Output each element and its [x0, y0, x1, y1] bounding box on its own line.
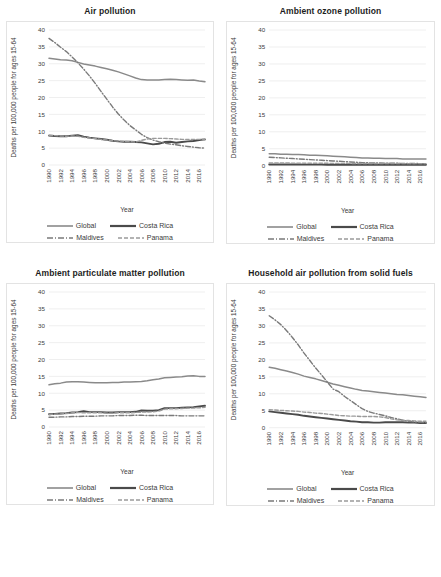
legend-item-global[interactable]: Global — [267, 223, 316, 231]
y-axis-tick-label: 5 — [42, 144, 46, 151]
x-axis-tick-label: 2008 — [149, 430, 156, 444]
legend-swatch-costa-rica-icon — [110, 223, 136, 229]
chart-svg: 0510152025303540Deaths per 100,000 peopl… — [7, 22, 213, 217]
legend-label-costa-rica: Costa Rica — [360, 223, 394, 231]
x-axis-tick-label: 1992 — [57, 168, 64, 182]
y-axis-title: Deaths per 100,000 people for ages 15-64 — [10, 299, 18, 420]
chart-plot-area: 0510152025303540Deaths per 100,000 peopl… — [7, 22, 213, 217]
x-axis-tick-label: 2000 — [323, 169, 330, 183]
chart-legend: Global Costa Rica Maldives Panama — [7, 222, 213, 242]
y-axis-tick-label: 30 — [38, 60, 45, 67]
x-axis-tick-label: 2004 — [126, 168, 133, 182]
y-axis-tick-label: 15 — [258, 111, 265, 118]
y-axis-tick-label: 25 — [38, 339, 45, 346]
x-axis-tick-label: 1998 — [91, 430, 98, 444]
figure-caption — [0, 552, 441, 577]
legend-label-maldives: Maldives — [297, 235, 325, 243]
chart-panel: 0510152025303540Deaths per 100,000 peopl… — [6, 21, 214, 243]
legend-label-costa-rica: Costa Rica — [360, 485, 394, 493]
series-line-global — [269, 367, 426, 397]
legend-item-panama[interactable]: Panama — [118, 234, 173, 242]
chart-svg: 0510152025303540Deaths per 100,000 peopl… — [227, 22, 434, 218]
legend-item-costa-rica[interactable]: Costa Rica — [331, 223, 394, 231]
y-axis-tick-label: 30 — [258, 322, 265, 329]
legend-item-panama[interactable]: Panama — [338, 497, 393, 505]
legend-label-global: Global — [296, 485, 316, 493]
legend-row-top: Global Costa Rica — [267, 485, 393, 493]
legend-swatch-global-icon — [267, 486, 293, 492]
series-line-maldives — [49, 415, 205, 417]
x-axis-tick-label: 2014 — [184, 168, 191, 182]
x-axis-tick-label: 1996 — [300, 431, 307, 445]
legend-label-maldives: Maldives — [297, 497, 325, 505]
x-axis-tick-label: 1998 — [91, 168, 98, 182]
x-axis-tick-label: 2010 — [382, 169, 389, 183]
legend-item-maldives[interactable]: Maldives — [268, 235, 325, 243]
figure-grid: Air pollution 0510152025303540Deaths per… — [0, 0, 441, 577]
y-axis-tick-label: 10 — [258, 390, 265, 397]
y-axis-tick-label: 40 — [258, 26, 265, 33]
legend-item-maldives[interactable]: Maldives — [47, 234, 104, 242]
y-axis-tick-label: 35 — [258, 43, 265, 50]
y-axis-tick-label: 25 — [258, 77, 265, 84]
y-axis-title: Deaths per 100,000 people for ages 15-64 — [230, 299, 238, 420]
x-axis-tick-label: 2006 — [138, 168, 145, 182]
chart-plot-area: 0510152025303540Deaths per 100,000 peopl… — [227, 22, 434, 218]
x-axis-tick-label: 2014 — [184, 430, 191, 444]
legend-item-costa-rica[interactable]: Costa Rica — [110, 222, 173, 230]
y-axis-tick-label: 10 — [258, 128, 265, 135]
legend-item-maldives[interactable]: Maldives — [47, 496, 104, 504]
chart-cell-household-air-pollution: Household air pollution from solid fuels… — [220, 262, 441, 552]
y-axis-tick-label: 30 — [258, 60, 265, 67]
x-axis-title: Year — [120, 468, 134, 475]
legend-label-maldives: Maldives — [76, 496, 104, 504]
legend-item-global[interactable]: Global — [47, 484, 96, 492]
y-axis-tick-label: 15 — [38, 373, 45, 380]
chart-plot-area: 0510152025303540Deaths per 100,000 peopl… — [227, 284, 434, 480]
legend-swatch-maldives-icon — [268, 236, 294, 242]
legend-row-top: Global Costa Rica — [47, 484, 173, 492]
y-axis-tick-label: 35 — [38, 305, 45, 312]
x-axis-tick-label: 2010 — [161, 430, 168, 444]
legend-item-panama[interactable]: Panama — [338, 235, 393, 243]
chart-panel: 0510152025303540Deaths per 100,000 peopl… — [226, 21, 435, 244]
chart-title: Ambient particulate matter pollution — [6, 268, 214, 279]
legend-row-bottom: Maldives Panama — [268, 497, 394, 505]
series-line-panama — [269, 410, 426, 422]
legend-item-costa-rica[interactable]: Costa Rica — [110, 484, 173, 492]
y-axis-tick-label: 40 — [258, 288, 265, 295]
x-axis-tick-label: 2002 — [335, 431, 342, 445]
legend-row-bottom: Maldives Panama — [47, 234, 173, 242]
x-axis-tick-label: 1990 — [265, 431, 272, 445]
legend-label-panama: Panama — [367, 497, 393, 505]
x-axis-tick-label: 1998 — [312, 169, 319, 183]
x-axis-tick-label: 2008 — [149, 168, 156, 182]
x-axis-tick-label: 2008 — [370, 169, 377, 183]
legend-row-bottom: Maldives Panama — [47, 496, 173, 504]
y-axis-tick-label: 5 — [42, 406, 46, 413]
legend-item-panama[interactable]: Panama — [118, 496, 173, 504]
x-axis-tick-label: 2012 — [393, 169, 400, 183]
legend-item-global[interactable]: Global — [267, 485, 316, 493]
legend-item-global[interactable]: Global — [47, 222, 96, 230]
chart-title: Air pollution — [6, 6, 214, 17]
legend-label-panama: Panama — [367, 235, 393, 243]
chart-cell-air-pollution: Air pollution 0510152025303540Deaths per… — [0, 0, 220, 262]
legend-label-costa-rica: Costa Rica — [139, 484, 173, 492]
series-line-panama — [49, 407, 205, 414]
legend-row-top: Global Costa Rica — [47, 222, 173, 230]
x-axis-tick-label: 2004 — [347, 169, 354, 183]
legend-row-top: Global Costa Rica — [267, 223, 393, 231]
legend-label-global: Global — [76, 484, 96, 492]
legend-label-global: Global — [76, 222, 96, 230]
x-axis-tick-label: 1996 — [300, 169, 307, 183]
x-axis-tick-label: 2004 — [126, 430, 133, 444]
y-axis-title: Deaths per 100,000 people for ages 15-64 — [10, 37, 18, 158]
legend-item-costa-rica[interactable]: Costa Rica — [331, 485, 394, 493]
legend-swatch-global-icon — [267, 224, 293, 230]
y-axis-tick-label: 35 — [258, 305, 265, 312]
y-axis-tick-label: 40 — [38, 26, 45, 33]
chart-panel: 0510152025303540Deaths per 100,000 peopl… — [6, 283, 214, 505]
y-axis-tick-label: 35 — [38, 43, 45, 50]
legend-item-maldives[interactable]: Maldives — [268, 497, 325, 505]
